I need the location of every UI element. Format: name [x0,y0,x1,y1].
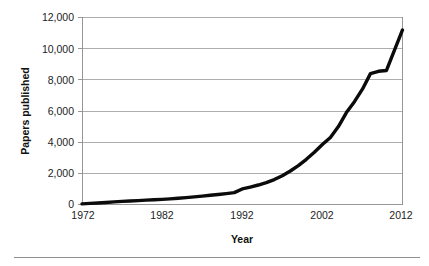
y-tick-label-2000: 2,000 [48,167,74,179]
y-tick-label-12000: 12,000 [42,11,74,23]
line-chart: 12,000 10,000 8,000 6,000 4,000 2,000 0 … [0,0,429,266]
x-axis-title: Year [231,233,253,245]
chart-figure: 12,000 10,000 8,000 6,000 4,000 2,000 0 … [0,0,429,266]
x-tick-label-2002: 2002 [310,209,334,221]
y-tick-labels: 12,000 10,000 8,000 6,000 4,000 2,000 0 [42,11,74,210]
x-tick-label-1972: 1972 [71,209,95,221]
y-axis-title: Papers published [19,67,31,155]
data-series-line [82,30,403,204]
x-tick-label-1982: 1982 [150,209,174,221]
y-tick-label-6000: 6,000 [48,105,74,117]
y-tick-label-10000: 10,000 [42,43,74,55]
y-tickmarks [78,18,82,205]
gridlines [82,18,403,174]
x-tick-label-2012: 2012 [389,209,413,221]
y-tick-label-8000: 8,000 [48,74,74,86]
x-tick-label-1992: 1992 [230,209,254,221]
x-tick-labels: 1972 1982 1992 2002 2012 [71,209,413,221]
y-tick-label-4000: 4,000 [48,136,74,148]
